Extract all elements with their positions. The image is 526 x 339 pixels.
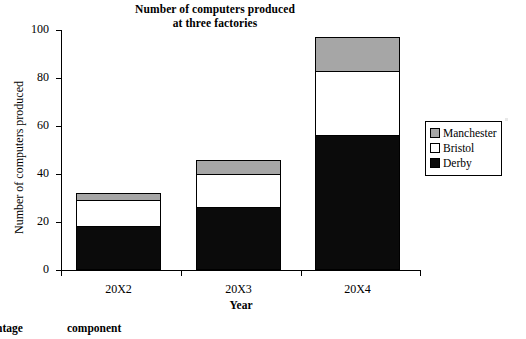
y-tick-label-0: 0 bbox=[9, 262, 49, 277]
bar-group-20X2[interactable] bbox=[76, 193, 161, 270]
chart-title: Number of computers produced at three fa… bbox=[60, 2, 370, 30]
legend-swatch-manchester-icon bbox=[430, 128, 440, 138]
bar-segment-bristol-20X4[interactable] bbox=[315, 71, 400, 136]
scan-artifact bbox=[505, 118, 508, 121]
legend-item-bristol[interactable]: Bristol bbox=[430, 141, 497, 155]
y-axis-line bbox=[61, 30, 62, 271]
y-tick-20: 20 bbox=[56, 222, 61, 223]
legend-swatch-derby-icon bbox=[430, 158, 440, 168]
bar-group-20X4[interactable] bbox=[315, 37, 400, 270]
y-tick-40: 40 bbox=[56, 174, 61, 175]
chart-title-line-1: Number of computers produced bbox=[135, 3, 295, 15]
y-tick-label-20: 20 bbox=[9, 214, 49, 229]
y-tick-60: 60 bbox=[56, 126, 61, 127]
legend-item-manchester[interactable]: Manchester bbox=[430, 126, 497, 140]
chart-page: Number of computers produced at three fa… bbox=[0, 0, 526, 339]
legend-label-bristol: Bristol bbox=[443, 141, 474, 155]
bar-segment-bristol-20X2[interactable] bbox=[76, 200, 161, 227]
x-tick-2 bbox=[301, 270, 302, 276]
x-tick-3 bbox=[420, 270, 421, 276]
y-tick-label-100: 100 bbox=[9, 22, 49, 37]
bar-segment-bristol-20X3[interactable] bbox=[196, 174, 281, 208]
x-tick-1 bbox=[181, 270, 182, 276]
chart-title-line-2: at three factories bbox=[60, 16, 370, 30]
x-category-label-20X3: 20X3 bbox=[196, 282, 281, 297]
x-tick-0 bbox=[61, 270, 62, 276]
legend-label-derby: Derby bbox=[443, 156, 472, 170]
y-tick-label-60: 60 bbox=[9, 118, 49, 133]
plot-area: 0 20 40 60 80 100 20X2 bbox=[61, 30, 421, 270]
legend-label-manchester: Manchester bbox=[443, 126, 497, 140]
footer-fragment-left: ntage bbox=[0, 322, 23, 334]
x-axis-title: Year bbox=[61, 299, 421, 311]
y-tick-label-40: 40 bbox=[9, 166, 49, 181]
bar-segment-manchester-20X4[interactable] bbox=[315, 37, 400, 72]
legend-item-derby[interactable]: Derby bbox=[430, 156, 497, 170]
bar-segment-derby-20X2[interactable] bbox=[76, 226, 161, 270]
bar-segment-derby-20X4[interactable] bbox=[315, 135, 400, 270]
y-tick-80: 80 bbox=[56, 78, 61, 79]
footer-fragment-right: component bbox=[67, 322, 121, 334]
legend: Manchester Bristol Derby bbox=[425, 121, 502, 176]
bar-group-20X3[interactable] bbox=[196, 160, 281, 270]
bar-segment-manchester-20X3[interactable] bbox=[196, 160, 281, 175]
y-tick-100: 100 bbox=[56, 30, 61, 31]
x-axis-line bbox=[61, 270, 421, 271]
bar-segment-manchester-20X2[interactable] bbox=[76, 193, 161, 201]
x-category-label-20X4: 20X4 bbox=[315, 282, 400, 297]
legend-swatch-bristol-icon bbox=[430, 143, 440, 153]
x-category-label-20X2: 20X2 bbox=[76, 282, 161, 297]
bar-segment-derby-20X3[interactable] bbox=[196, 207, 281, 270]
y-tick-label-80: 80 bbox=[9, 70, 49, 85]
